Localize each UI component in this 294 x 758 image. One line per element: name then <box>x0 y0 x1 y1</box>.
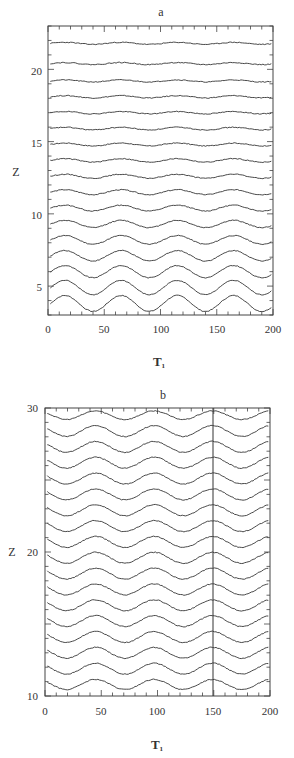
panel-b-traces <box>47 411 268 690</box>
ytick-label: 30 <box>27 402 39 414</box>
xtick-label: 0 <box>42 705 48 717</box>
panel-a: a 0 50 100 150 200 5 10 15 20 Z T1 <box>12 5 281 370</box>
figure: a 0 50 100 150 200 5 10 15 20 Z T1 b 0 5… <box>0 0 294 758</box>
trace-line <box>50 205 271 211</box>
panel-a-traces <box>50 42 271 312</box>
panel-a-xlabel: T1 <box>153 354 166 370</box>
panel-a-frame <box>48 26 273 315</box>
panel-b-xtick-labels: 0 50 100 150 200 <box>42 705 279 717</box>
ytick-label: 10 <box>31 209 43 221</box>
trace-line <box>50 265 271 278</box>
trace-line <box>47 552 268 564</box>
xtick-label: 150 <box>205 705 222 717</box>
ytick-label: 20 <box>27 546 39 558</box>
panel-a-ylabel: Z <box>12 165 19 179</box>
panel-a-ytick-labels: 5 10 15 20 <box>31 65 43 293</box>
trace-line <box>50 42 271 45</box>
panel-a-ticks <box>48 26 273 315</box>
trace-line <box>50 280 271 295</box>
ytick-label: 10 <box>27 690 39 702</box>
trace-line <box>47 679 268 690</box>
ytick-label: 20 <box>31 65 43 77</box>
trace-line <box>50 174 271 179</box>
trace-line <box>50 95 271 98</box>
trace-line <box>50 220 271 228</box>
trace-line <box>47 615 268 627</box>
trace-line <box>50 158 271 162</box>
panel-a-title: a <box>158 5 164 19</box>
trace-line <box>47 568 268 580</box>
ytick-label: 5 <box>37 281 43 293</box>
trace-line <box>50 62 271 65</box>
trace-line <box>50 189 271 195</box>
ytick-label: 15 <box>31 137 43 149</box>
panel-b-ylabel: Z <box>8 545 15 559</box>
xtick-label: 200 <box>262 705 279 717</box>
trace-line <box>47 631 268 643</box>
trace-line <box>50 80 271 83</box>
xtick-label: 100 <box>153 323 170 335</box>
panel-b-title: b <box>160 388 166 402</box>
trace-line <box>50 250 271 261</box>
trace-line <box>47 473 268 484</box>
xtick-label: 50 <box>96 705 108 717</box>
trace-line <box>47 425 268 437</box>
trace-line <box>47 663 268 674</box>
xtick-label: 200 <box>265 323 282 335</box>
trace-line <box>47 520 268 532</box>
xtick-label: 100 <box>149 705 166 717</box>
panel-b-ytick-labels: 10 20 30 <box>27 402 39 702</box>
xtick-label: 50 <box>99 323 111 335</box>
panel-b: b 0 50 100 150 200 10 20 30 Z T1 <box>8 388 278 753</box>
trace-line <box>47 489 268 500</box>
xtick-label: 0 <box>45 323 51 335</box>
trace-line <box>47 441 268 453</box>
trace-line <box>47 600 268 611</box>
trace-line <box>47 647 268 659</box>
trace-line <box>47 504 268 516</box>
trace-line <box>50 127 271 130</box>
xtick-label: 150 <box>209 323 226 335</box>
panel-a-xtick-labels: 0 50 100 150 200 <box>45 323 282 335</box>
trace-line <box>50 235 271 244</box>
trace-line <box>47 536 268 548</box>
panel-b-xlabel: T1 <box>151 737 164 753</box>
trace-line <box>50 143 271 147</box>
trace-line <box>47 457 268 469</box>
trace-line <box>47 584 268 596</box>
trace-line <box>50 111 271 114</box>
